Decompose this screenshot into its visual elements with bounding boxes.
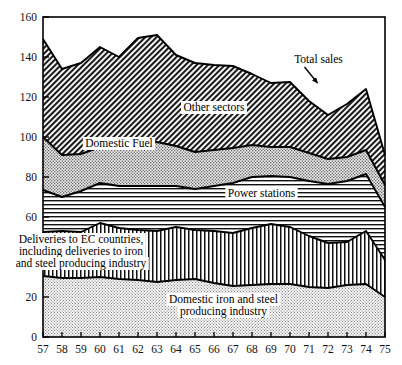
x-tick-label: 74	[360, 343, 372, 355]
x-tick-label: 57	[37, 343, 49, 355]
y-tick-label: 80	[26, 171, 38, 183]
x-tick-label: 63	[151, 343, 163, 355]
annotation-text: producing industry	[180, 305, 267, 318]
x-tick-label: 71	[303, 343, 315, 355]
x-tick-label: 73	[341, 343, 353, 355]
x-tick-label: 60	[94, 343, 106, 355]
annotation-other-sectors: Other sectors	[181, 101, 247, 114]
annotation-domestic-fuel: Domestic Fuel	[83, 137, 155, 150]
x-tick-label: 69	[265, 343, 277, 355]
x-tick-label: 67	[227, 343, 239, 355]
y-tick-label: 0	[31, 331, 37, 343]
annotation-total-sales: Total sales	[292, 53, 346, 66]
y-tick-label: 140	[20, 51, 38, 63]
x-tick-label: 65	[189, 343, 201, 355]
y-tick-label: 160	[20, 11, 38, 23]
annotation-text: and steel producing industry	[16, 257, 147, 270]
x-tick-label: 62	[132, 343, 144, 355]
annotation-text: Domestic Fuel	[85, 137, 152, 149]
annotation-text: Power stations	[228, 187, 296, 199]
x-tick-label: 75	[379, 343, 391, 355]
annotation-domestic-iron-line2: producing industry	[177, 305, 269, 318]
x-tick-label: 66	[208, 343, 220, 355]
x-tick-label: 61	[113, 343, 125, 355]
x-tick-label: 59	[75, 343, 87, 355]
x-tick-label: 68	[246, 343, 258, 355]
x-tick-label: 72	[322, 343, 334, 355]
chart-container: 020406080100120140160 575859606162636465…	[0, 0, 402, 365]
x-tick-label: 64	[170, 343, 182, 355]
annotation-text: Domestic iron and steel	[169, 293, 278, 305]
annotation-text: Total sales	[294, 53, 343, 65]
y-tick-label: 20	[26, 291, 38, 303]
annotation-power-stations: Power stations	[225, 187, 297, 200]
x-tick-label: 70	[284, 343, 296, 355]
annotation-deliveries-ec-line3: and steel producing industry	[13, 257, 149, 270]
y-tick-label: 100	[20, 131, 38, 143]
x-tick-label: 58	[56, 343, 68, 355]
annotation-text: Other sectors	[184, 101, 246, 113]
stacked-area-chart: 020406080100120140160 575859606162636465…	[0, 0, 402, 365]
y-tick-label: 60	[26, 211, 38, 223]
y-tick-label: 120	[20, 91, 38, 103]
